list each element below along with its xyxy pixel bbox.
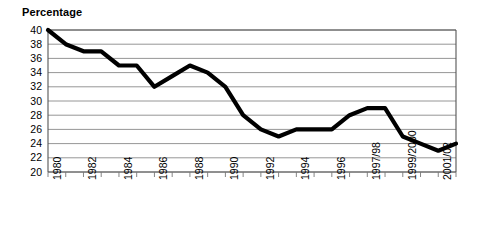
x-tick-label: 1999/2000 xyxy=(407,130,417,180)
x-tick-label: 1986 xyxy=(158,157,168,180)
x-axis-ticks xyxy=(48,172,456,177)
data-series-line xyxy=(48,30,456,151)
x-tick-label: 1984 xyxy=(123,157,133,180)
series-polyline xyxy=(48,30,456,151)
y-tick-label: 32 xyxy=(20,81,42,91)
y-tick-label: 36 xyxy=(20,53,42,63)
x-tick-label: 1996 xyxy=(336,157,346,180)
x-tick-label: 1997/98 xyxy=(371,142,381,180)
x-tick-label: 1990 xyxy=(229,157,239,180)
y-tick-label: 38 xyxy=(20,39,42,49)
y-tick-label: 30 xyxy=(20,96,42,106)
y-tick-label: 20 xyxy=(20,167,42,177)
x-tick-label: 1988 xyxy=(194,157,204,180)
x-tick-label: 2001/02 xyxy=(442,142,452,180)
x-tick-label: 1982 xyxy=(87,157,97,180)
plot-area xyxy=(0,0,497,252)
x-tick-label: 1992 xyxy=(265,157,275,180)
y-tick-label: 22 xyxy=(20,152,42,162)
x-tick-label: 1994 xyxy=(300,157,310,180)
y-tick-label: 28 xyxy=(20,110,42,120)
y-tick-label: 24 xyxy=(20,138,42,148)
gridlines xyxy=(48,30,456,172)
line-chart: Percentage 2022242628303234363840 198019… xyxy=(0,0,497,252)
y-tick-label: 34 xyxy=(20,67,42,77)
y-tick-label: 40 xyxy=(20,25,42,35)
y-tick-label: 26 xyxy=(20,124,42,134)
x-tick-label: 1980 xyxy=(52,157,62,180)
